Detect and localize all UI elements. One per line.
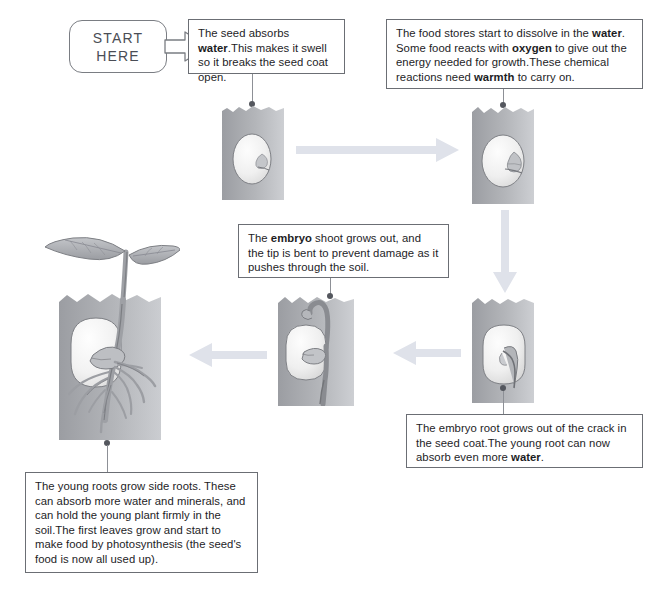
panel-seedling	[45, 222, 180, 462]
callout-step-4-text: The embryo shoot grows out, and the tip …	[248, 232, 438, 273]
flow-arrow-left-1-icon	[392, 340, 462, 366]
panel-seed-swollen	[472, 104, 534, 204]
panel-shoot-emerging	[278, 288, 354, 406]
leader-line-step-1	[252, 74, 253, 104]
start-here-label-line2: HERE	[96, 47, 140, 65]
leader-line-step-3	[503, 388, 504, 414]
callout-step-1: The seed absorbs water.This makes it swe…	[188, 19, 345, 74]
start-here-label-line1: START	[93, 29, 144, 47]
callout-step-2-text: The food stores start to dissolve in the…	[396, 27, 627, 83]
start-here-badge: START HERE	[69, 20, 167, 73]
flow-arrow-down-icon	[492, 210, 518, 294]
callout-step-5-text: The young roots grow side roots. These c…	[35, 480, 245, 565]
panel-seed-dormant	[222, 104, 284, 200]
leader-dot-step-3	[500, 385, 506, 391]
callout-step-3: The embryo root grows out of the crack i…	[406, 414, 643, 468]
callout-step-4: The embryo shoot grows out, and the tip …	[238, 224, 449, 278]
callout-step-5: The young roots grow side roots. These c…	[25, 472, 258, 573]
callout-step-1-text: The seed absorbs water.This makes it swe…	[198, 27, 328, 83]
leader-line-step-5	[107, 445, 108, 473]
flow-arrow-left-2-icon	[188, 342, 268, 368]
callout-step-2: The food stores start to dissolve in the…	[386, 19, 643, 89]
germination-diagram: START HERE The seed absorbs water.This m…	[0, 0, 657, 595]
callout-step-3-text: The embryo root grows out of the crack i…	[416, 422, 627, 463]
flow-arrow-right-1-icon	[296, 137, 460, 163]
